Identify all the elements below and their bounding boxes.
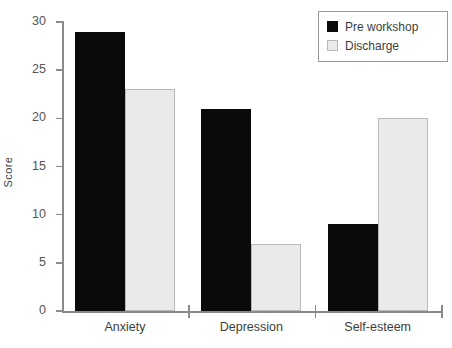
bar (201, 109, 251, 311)
x-axis-category-label: Anxiety (75, 320, 175, 334)
bar (75, 32, 125, 311)
legend-label: Pre workshop (345, 21, 418, 33)
bar (378, 118, 428, 311)
legend-item-pre-workshop: Pre workshop (327, 17, 440, 36)
bar-chart: Score 051015202530 AnxietyDepressionSelf… (0, 0, 452, 348)
x-axis-category-label: Depression (201, 320, 301, 334)
legend-swatch-icon (327, 21, 338, 32)
bar (125, 89, 175, 311)
legend-item-discharge: Discharge (327, 36, 440, 55)
legend: Pre workshop Discharge (318, 11, 448, 62)
bar (251, 244, 301, 311)
x-axis-category-label: Self-esteem (328, 320, 428, 334)
legend-label: Discharge (345, 40, 399, 52)
bar (328, 224, 378, 311)
legend-swatch-icon (327, 40, 338, 51)
